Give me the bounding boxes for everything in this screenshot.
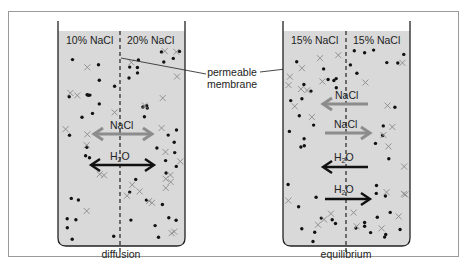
water-molecule-dot: [97, 63, 100, 66]
water-molecule-dot: [172, 57, 175, 60]
left-concentration-label: 15% NaCl: [291, 34, 338, 46]
water-molecule-dot: [91, 112, 94, 115]
water-molecule-dot: [164, 159, 167, 162]
water-molecule-dot: [286, 183, 289, 186]
water-molecule-dot: [84, 154, 87, 157]
nacl-arrow-label: NaCl: [110, 119, 133, 131]
water-molecule-dot: [331, 218, 334, 221]
water-molecule-dot: [136, 71, 139, 74]
water-molecule-dot: [298, 114, 301, 117]
water-molecule-dot: [167, 216, 170, 219]
water-molecule-dot: [355, 72, 358, 75]
water-molecule-dot: [113, 85, 116, 88]
water-molecule-dot: [88, 156, 91, 159]
water-molecule-dot: [74, 218, 77, 221]
water-molecule-dot: [71, 58, 74, 61]
water-molecule-dot: [127, 76, 130, 79]
right-concentration-label: 20% NaCl: [127, 34, 174, 46]
water-molecule-dot: [164, 171, 167, 174]
water-molecule-dot: [299, 145, 302, 148]
water-molecule-dot: [155, 146, 158, 149]
water-molecule-dot: [77, 198, 80, 201]
callout-label-line1: permeable: [207, 66, 257, 78]
water-molecule-dot: [289, 99, 292, 102]
water-molecule-dot: [314, 196, 317, 199]
water-molecule-dot: [98, 79, 101, 82]
left-concentration-label: 10% NaCl: [66, 34, 113, 46]
water-molecule-dot: [322, 67, 325, 70]
water-molecule-dot: [375, 192, 378, 195]
water-molecule-dot: [288, 130, 291, 133]
water-molecule-dot: [153, 224, 156, 227]
water-molecule-dot: [363, 221, 366, 224]
water-molecule-dot: [157, 236, 160, 239]
water-molecule-dot: [161, 203, 164, 206]
water-molecule-dot: [402, 53, 405, 56]
water-molecule-dot: [369, 231, 372, 234]
callout-label-line2: membrane: [207, 78, 257, 90]
beaker-diffusion: 10% NaCl 20% NaCl NaCl H2O diffusion: [58, 21, 185, 260]
water-molecule-dot: [335, 77, 338, 80]
water-molecule-dot: [398, 228, 401, 231]
water-molecule-dot: [70, 197, 73, 200]
water-molecule-dot: [87, 94, 90, 97]
liquid-fill: [58, 31, 185, 246]
water-molecule-dot: [302, 137, 305, 140]
water-molecule-dot: [143, 115, 146, 118]
water-molecule-dot: [372, 48, 375, 51]
water-molecule-dot: [396, 61, 399, 64]
water-molecule-dot: [175, 165, 178, 168]
water-molecule-dot: [98, 102, 101, 105]
water-molecule-dot: [175, 128, 178, 131]
water-molecule-dot: [363, 225, 366, 228]
water-molecule-dot: [349, 63, 352, 66]
water-molecule-dot: [295, 60, 298, 63]
nacl-arrow-label: NaCl: [334, 118, 357, 130]
water-molecule-dot: [309, 89, 312, 92]
water-molecule-dot: [167, 133, 170, 136]
water-molecule-dot: [129, 218, 132, 221]
caption-equilibrium: equilibrium: [321, 248, 372, 260]
water-molecule-dot: [300, 227, 303, 230]
water-molecule-dot: [387, 157, 390, 160]
osmosis-diagram: 10% NaCl 20% NaCl NaCl H2O diffusion per…: [0, 0, 468, 269]
water-molecule-dot: [174, 219, 177, 222]
water-molecule-dot: [363, 51, 366, 54]
water-molecule-dot: [389, 211, 392, 214]
nacl-arrow-label: NaCl: [335, 89, 358, 101]
water-molecule-dot: [313, 231, 316, 234]
water-molecule-dot: [128, 65, 131, 68]
water-molecule-dot: [353, 49, 356, 52]
water-molecule-dot: [297, 205, 300, 208]
water-molecule-dot: [66, 217, 69, 220]
water-molecule-dot: [300, 97, 303, 100]
water-molecule-dot: [173, 151, 176, 154]
water-molecule-dot: [134, 178, 137, 181]
water-molecule-dot: [302, 83, 305, 86]
water-molecule-dot: [385, 61, 388, 64]
water-molecule-dot: [68, 134, 71, 137]
water-molecule-dot: [71, 238, 74, 241]
water-molecule-dot: [334, 222, 337, 225]
water-molecule-dot: [382, 124, 385, 127]
water-molecule-dot: [375, 184, 378, 187]
water-molecule-dot: [80, 116, 83, 119]
water-molecule-dot: [376, 216, 379, 219]
water-molecule-dot: [112, 235, 115, 238]
water-molecule-dot: [384, 233, 387, 236]
water-molecule-dot: [173, 141, 176, 144]
water-molecule-dot: [312, 123, 315, 126]
water-molecule-dot: [136, 66, 139, 69]
water-molecule-dot: [326, 78, 329, 81]
water-molecule-dot: [162, 60, 165, 63]
water-molecule-dot: [374, 142, 377, 145]
water-molecule-dot: [303, 144, 306, 147]
caption-diffusion: diffusion: [102, 248, 141, 260]
water-molecule-dot: [311, 240, 314, 243]
water-molecule-dot: [393, 106, 396, 109]
beaker-equilibrium: 15% NaCl 15% NaCl NaCl NaCl H2O H2O equi…: [283, 21, 410, 260]
right-concentration-label: 15% NaCl: [353, 34, 400, 46]
water-molecule-dot: [66, 226, 69, 229]
